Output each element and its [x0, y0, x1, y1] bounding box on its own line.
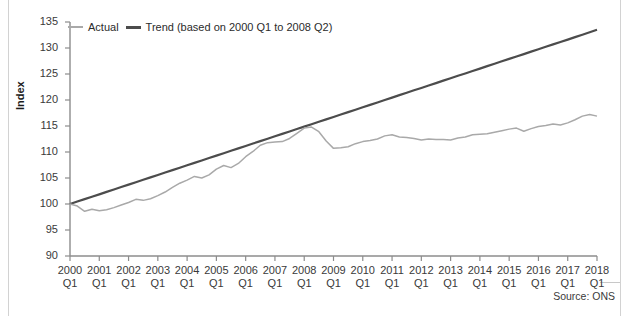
y-tick-label: 115 — [32, 120, 58, 131]
legend-label-actual: Actual — [88, 21, 119, 33]
legend-line-swatch-actual-icon — [68, 26, 83, 28]
y-tick-label: 130 — [32, 42, 58, 53]
legend-line-swatch-trend-icon — [126, 26, 141, 29]
y-tick-label: 90 — [32, 250, 58, 261]
chart-figure: 9095100105110115120125130135 Index 2000Q… — [0, 0, 629, 316]
y-tick-label: 95 — [32, 224, 58, 235]
y-axis-title: Index — [14, 81, 26, 110]
legend-label-trend: Trend (based on 2000 Q1 to 2008 Q2) — [146, 21, 333, 33]
y-tick-label: 105 — [32, 172, 58, 183]
axis-ticks — [65, 22, 597, 261]
trend-line-series — [70, 30, 597, 204]
chart-legend: Actual Trend (based on 2000 Q1 to 2008 Q… — [68, 21, 332, 33]
y-tick-label: 100 — [32, 198, 58, 209]
x-tick-label: 2018Q1 — [580, 264, 614, 290]
y-tick-label: 110 — [32, 146, 58, 157]
actual-line-series — [70, 115, 597, 212]
legend-entry-actual: Actual — [68, 21, 119, 33]
y-tick-label: 135 — [32, 16, 58, 27]
y-tick-label: 125 — [32, 68, 58, 79]
legend-entry-trend: Trend (based on 2000 Q1 to 2008 Q2) — [126, 21, 333, 33]
source-note: Source: ONS — [470, 290, 615, 302]
y-tick-label: 120 — [32, 94, 58, 105]
